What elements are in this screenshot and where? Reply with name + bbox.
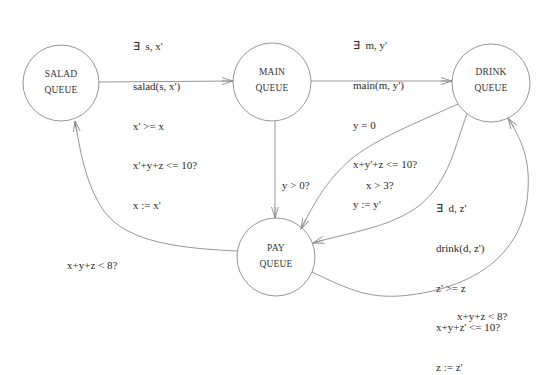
node-label-drink: DRINK QUEUE bbox=[461, 64, 521, 96]
salad-line2: QUEUE bbox=[31, 82, 91, 98]
guard-line: ∃ s, x' bbox=[133, 40, 197, 53]
guard-line: x+y+z < 8? bbox=[457, 310, 507, 323]
pay-line2: QUEUE bbox=[246, 256, 306, 272]
guard-line: x'+y+z <= 10? bbox=[133, 159, 197, 172]
node-label-main: MAIN QUEUE bbox=[242, 64, 302, 96]
node-label-salad: SALAD QUEUE bbox=[31, 66, 91, 98]
guard-line: main(m, y') bbox=[353, 79, 417, 92]
label-main-to-pay: y > 0? bbox=[282, 153, 310, 219]
guard-line: ∃ m, y' bbox=[353, 39, 417, 52]
drink-line2: QUEUE bbox=[461, 80, 521, 96]
guard-line: x := x' bbox=[133, 199, 197, 212]
guard-line: ∃ d, z' bbox=[436, 202, 500, 215]
main-line1: MAIN bbox=[242, 64, 302, 80]
guard-line: x+y+z < 8? bbox=[67, 259, 117, 272]
guard-line: x > 3? bbox=[366, 179, 394, 192]
salad-line1: SALAD bbox=[31, 66, 91, 82]
label-salad-to-main: ∃ s, x' salad(s, x') x' >= x x'+y+z <= 1… bbox=[133, 14, 197, 238]
guard-line: y = 0 bbox=[353, 119, 417, 132]
label-pay-to-drink: x+y+z < 8? bbox=[457, 284, 507, 350]
drink-line1: DRINK bbox=[461, 64, 521, 80]
guard-line: z := z' bbox=[436, 361, 500, 374]
pay-line1: PAY bbox=[246, 240, 306, 256]
label-pay-to-salad: x+y+z < 8? bbox=[67, 233, 117, 299]
guard-line: drink(d, z') bbox=[436, 242, 500, 255]
main-line2: QUEUE bbox=[242, 80, 302, 96]
label-drink-to-pay-x: x > 3? bbox=[366, 153, 394, 219]
guard-line: salad(s, x') bbox=[133, 80, 197, 93]
guard-line: y > 0? bbox=[282, 179, 310, 192]
guard-line: x' >= x bbox=[133, 120, 197, 133]
node-label-pay: PAY QUEUE bbox=[246, 240, 306, 272]
